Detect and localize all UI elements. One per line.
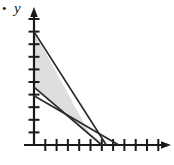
feasible-region-polygon bbox=[34, 32, 91, 135]
coordinate-plane-figure: • y bbox=[0, 0, 174, 165]
shaded-region bbox=[34, 32, 91, 135]
y-axis-arrow-icon bbox=[30, 7, 38, 17]
constraint-line-line-3 bbox=[34, 96, 119, 145]
x-axis-arrow-icon bbox=[161, 141, 171, 149]
plot-canvas bbox=[0, 0, 174, 165]
